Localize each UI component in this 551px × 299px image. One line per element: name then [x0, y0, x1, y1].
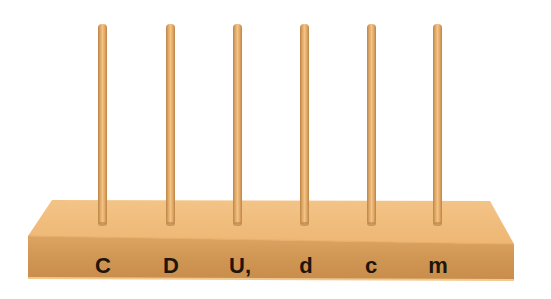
peg-2	[166, 24, 175, 224]
abacus-scene: C D U, d c m	[0, 0, 551, 299]
wooden-board	[0, 0, 551, 299]
peg-label-2: D	[156, 254, 186, 278]
peg-4	[300, 24, 309, 224]
peg-5	[367, 24, 376, 224]
peg-label-3: U,	[225, 254, 255, 278]
peg-1	[98, 24, 107, 224]
peg-label-1: C	[88, 254, 118, 278]
peg-6	[433, 24, 442, 224]
peg-label-6: m	[423, 254, 453, 278]
peg-label-5: c	[356, 254, 386, 278]
peg-3	[233, 24, 242, 224]
peg-label-4: d	[291, 254, 321, 278]
